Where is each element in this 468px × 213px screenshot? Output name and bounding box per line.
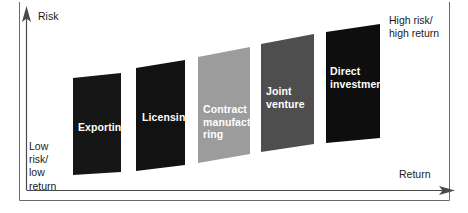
entry-mode-bars bbox=[73, 24, 380, 175]
bar-label-exporting: Exporting bbox=[78, 121, 128, 134]
risk-return-diagram: Risk Return Low risk/ low return High ri… bbox=[0, 0, 468, 213]
bar-label-contract-manufacturing: Contract manufactu- ring bbox=[203, 103, 261, 141]
bar-label-direct-investment: Direct investment bbox=[330, 65, 386, 90]
bar-label-joint-venture: Joint venture bbox=[266, 85, 305, 110]
risk-axis-label: Risk bbox=[38, 10, 58, 23]
return-axis-label: Return bbox=[399, 168, 431, 181]
low-risk-low-return-annotation: Low risk/ low return bbox=[29, 140, 56, 193]
bar-label-licensing: Licensing bbox=[142, 111, 192, 124]
high-risk-high-return-annotation: High risk/ high return bbox=[389, 14, 439, 40]
return-axis bbox=[27, 186, 456, 195]
